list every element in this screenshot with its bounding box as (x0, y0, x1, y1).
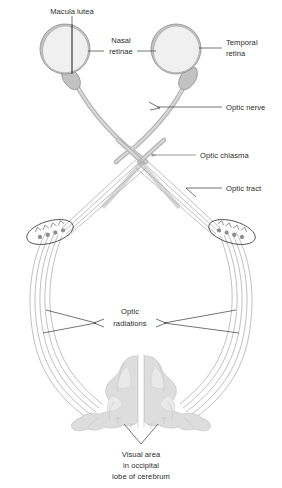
label-optic-tract: Optic tract (226, 184, 262, 193)
optic-radiations-leader-left-lower (43, 323, 96, 333)
optic-nerve-arrowhead (149, 102, 160, 110)
right-eyeball (151, 24, 201, 90)
label-optic-radiations-line1: Optic (121, 307, 139, 316)
left-optic-tract (62, 156, 146, 236)
label-visual-area-line2: in occipital (123, 461, 159, 470)
optic-radiations-leader-left (46, 310, 96, 323)
label-optic-nerve: Optic nerve (226, 103, 265, 112)
label-temporal-retina-line1: Temporal (226, 38, 258, 47)
left-eyeball (40, 24, 90, 90)
right-optic-radiations (180, 232, 252, 420)
visual-pathway-diagram: Macula lutea Nasal retinae Temporal reti… (0, 0, 282, 488)
chiasma-outflow (104, 161, 178, 206)
right-optic-tract (136, 156, 220, 236)
left-optic-nerve (75, 82, 146, 162)
optic-radiations-leader-right-lower (164, 323, 239, 333)
left-optic-radiations (30, 232, 102, 420)
optic-tract-leader-2 (186, 188, 196, 197)
optic-radiations-leader-right (164, 310, 236, 323)
label-optic-chiasma: Optic chiasma (200, 151, 249, 160)
label-visual-area-line1: Visual area (122, 450, 161, 459)
label-nasal-retinae-line1: Nasal (111, 36, 131, 45)
label-visual-area-line3: lobe of cerebrum (112, 472, 170, 481)
label-macula-lutea: Macula lutea (50, 7, 94, 16)
occipital-lobe-cortex (71, 354, 210, 431)
label-optic-radiations-line2: radiations (113, 319, 147, 328)
label-temporal-retina-line2: retina (226, 49, 246, 58)
label-nasal-retinae-line2: retinae (109, 47, 133, 56)
visual-pathway-figure: Macula lutea Nasal retinae Temporal reti… (0, 0, 282, 488)
